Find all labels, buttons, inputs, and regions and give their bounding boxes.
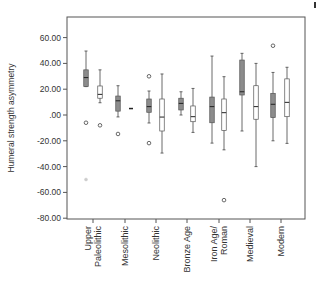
x-axis: UpperPaleolithicMesolithicNeolithicBronz… [83,219,286,273]
y-tick-label: -40.00 [37,162,61,172]
x-category-label: Modern [276,226,286,257]
box-open-0 [98,70,103,127]
outlier-point [222,198,226,202]
y-tick-label: 60.00 [40,33,62,43]
box-filled-6 [271,44,276,141]
outlier-point [84,121,88,125]
y-tick-label: -80.00 [37,213,61,223]
x-category-label: Upper [83,226,93,251]
y-tick-label: 20.00 [40,84,62,94]
box-filled-3 [179,92,184,115]
y-axis: 60.0040.0020.00.00-20.00-40.00-60.00-80.… [37,33,67,224]
outlier-point [85,178,88,181]
box-filled-0 [84,51,89,181]
box-filled-4 [210,56,215,143]
boxplot-chart: 60.0040.0020.00.00-20.00-40.00-60.00-80.… [0,0,320,292]
y-tick-label: -20.00 [37,136,61,146]
outlier-point [98,124,102,128]
box-open-6 [285,67,290,143]
box-filled-2 [147,75,152,145]
box-filled-1 [116,86,121,136]
x-category-label: Medieval [245,226,255,262]
x-category-label: Neolithic [151,226,161,261]
outlier-point [271,44,275,48]
x-category-label: Paleolithic [93,226,103,268]
y-axis-title: Humeral strength asymmetry [6,63,16,173]
y-tick-label: -60.00 [37,187,61,197]
outlier-point [147,75,151,79]
outlier-point [116,132,120,136]
box-open-5 [254,63,259,166]
x-category-label: Iron Age/ [209,226,219,263]
outlier-point [147,141,151,145]
y-tick-label: 40.00 [40,58,62,68]
box-open-3 [191,88,196,132]
box-series [84,44,290,202]
x-category-label: Mesolithic [120,226,130,267]
corner-mark [314,2,316,8]
x-category-label: Bronze Age [182,226,192,273]
box-filled-5 [240,53,245,131]
y-tick-label: .00 [49,110,61,120]
box-open-2 [160,74,165,153]
plot-frame [67,17,305,219]
x-category-label: Roman [219,226,229,255]
box-open-4 [222,77,227,202]
